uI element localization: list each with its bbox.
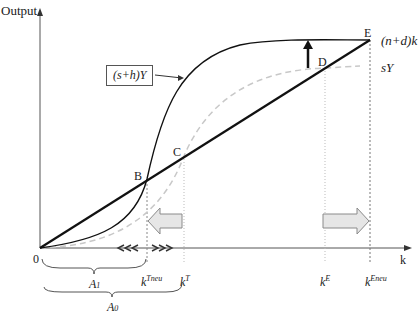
label-pointer [155,75,182,78]
y-axis-arrow-icon [37,8,43,16]
bracket-sub: 1 [96,281,100,290]
bracket-sub: 0 [114,304,118,313]
point-b-label: B [134,170,142,182]
tick-k-e: kE [320,276,330,288]
point-c-label: C [173,146,181,158]
sy-curve [40,66,360,248]
tick-sup: Tneu [146,274,162,283]
origin-label: 0 [33,253,39,265]
shy-curve-label: (s+h)Y [106,65,153,86]
shift-up-arrow-icon [303,40,313,49]
x-axis-arrow-icon [404,245,412,251]
right-block-arrow-icon [323,208,369,234]
nd-k-label: (n+d)k [381,35,417,47]
growth-diagram [0,0,420,319]
tick-k-tneu: kTneu [141,276,162,288]
left-block-arrow-icon [148,208,182,234]
tick-sup: T [185,274,189,283]
tick-k-eneu: kEneu [365,276,387,288]
tick-sup: E [325,274,330,283]
bracket-a1-label: A1 [89,278,100,292]
x-axis-label: k [400,254,406,266]
tick-k-t: kT [180,276,190,288]
tick-sup: Eneu [370,274,386,283]
brace-a1 [42,259,146,274]
point-e-label: E [364,27,371,39]
y-axis-label: Output [1,5,37,17]
sy-label: sY [381,62,393,74]
point-d-label: D [318,56,327,68]
bracket-a0-label: A0 [107,301,118,315]
label-pointer-arrow-icon [178,75,184,81]
nd-k-line [40,40,370,248]
